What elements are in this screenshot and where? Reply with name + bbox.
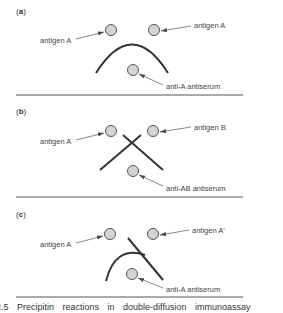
well-antigen-left <box>106 126 117 137</box>
leader-arrow-bottom <box>139 175 163 186</box>
label-left-well: antigen A <box>40 137 71 146</box>
well-antigen-right <box>148 126 159 137</box>
figure-caption: 2.5 Precipitin reactions in double-diffu… <box>0 302 283 312</box>
well-antiserum <box>127 269 138 280</box>
precipitin-line-b <box>100 135 141 170</box>
label-bottom-well: anti-A antiserum <box>166 82 220 91</box>
panel-a: (a) antigen A antigen A anti-A antiserum <box>16 7 243 95</box>
label-bottom-well: anti-A antiserum <box>166 285 220 294</box>
well-antiserum <box>128 65 139 76</box>
leader-arrow-left <box>76 32 104 39</box>
leader-arrow-right <box>161 26 191 31</box>
label-right-well: antigen B <box>194 123 226 132</box>
well-antigen-left <box>105 229 116 240</box>
label-left-well: antigen A <box>40 36 71 45</box>
panel-label-c: (c) <box>16 210 26 219</box>
well-antigen-left <box>106 25 117 36</box>
leader-arrow-right <box>160 230 189 235</box>
panel-b: (b) antigen A antigen B anti-AB antiseru… <box>16 107 243 197</box>
panel-label-a: (a) <box>16 7 26 16</box>
well-antigen-right <box>148 229 159 240</box>
well-antigen-right <box>149 25 160 36</box>
label-bottom-well: anti-AB antiserum <box>166 184 226 193</box>
label-right-well: antigen A <box>194 21 225 30</box>
leader-arrow-bottom <box>138 278 163 288</box>
leader-arrow-left <box>76 236 103 243</box>
precipitin-diagram: (a) antigen A antigen A anti-A antiserum… <box>0 0 283 313</box>
panel-label-b: (b) <box>16 107 27 116</box>
label-right-well: antigen A′ <box>192 226 225 235</box>
leader-arrow-right <box>160 127 191 132</box>
precipitin-arc-spur <box>106 253 145 281</box>
leader-arrow-left <box>76 133 104 140</box>
precipitin-line-a <box>123 135 163 170</box>
panel-c: (c) antigen A antigen A′ anti-A antiseru… <box>16 210 243 297</box>
leader-arrow-bottom <box>139 74 163 85</box>
label-left-well: antigen A <box>40 240 71 249</box>
well-antiserum <box>128 166 139 177</box>
